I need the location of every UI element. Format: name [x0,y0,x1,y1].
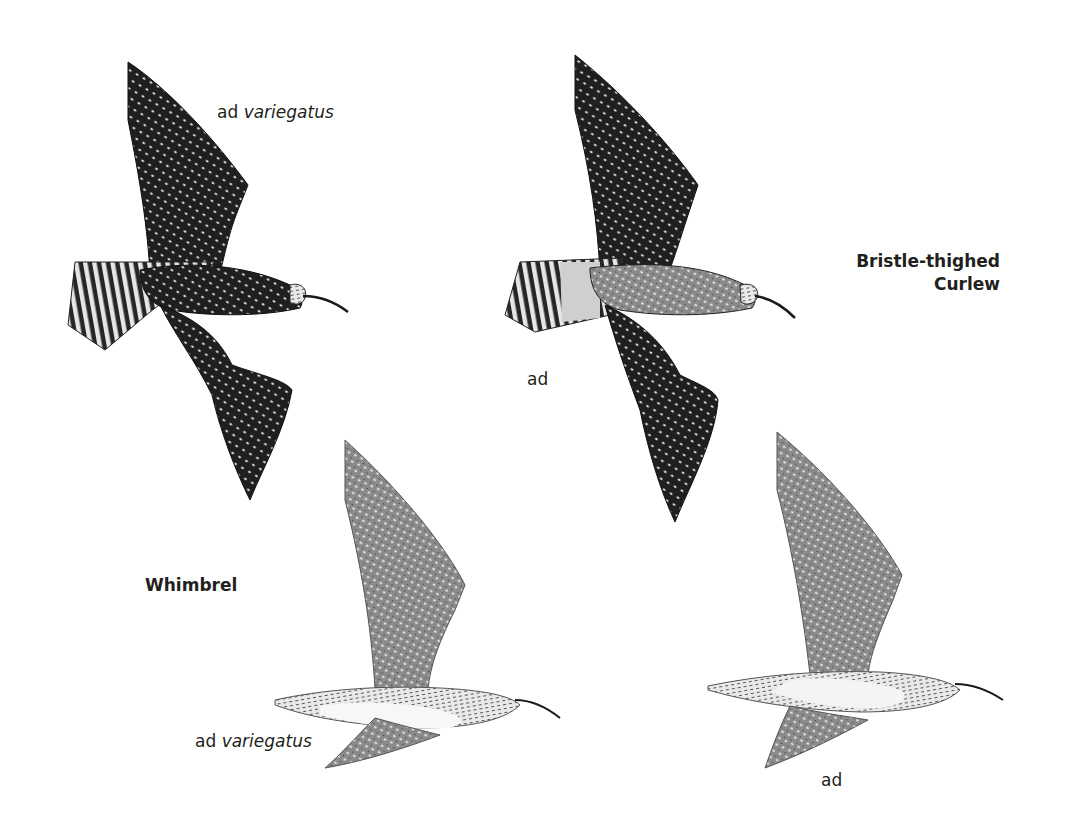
subspecies-label: variegatus [222,731,312,751]
whimbrel-underwing-figure [275,440,560,768]
bristle-thighed-upperwing-figure [505,55,795,522]
species-name-line2: Curlew [820,273,1000,296]
label-bottom-left: ad variegatus [195,730,312,752]
age-label: ad [527,369,548,389]
age-label: ad [217,102,238,122]
whimbrel-upperwing-figure [68,62,348,500]
age-label: ad [821,770,842,790]
species-name-text: Whimbrel [145,575,237,595]
label-top-left: ad variegatus [217,101,334,123]
species-name-whimbrel: Whimbrel [145,574,237,597]
bristle-thighed-underwing-figure [708,432,1003,768]
field-guide-plate: ad variegatus ad Bristle-thighed Curlew … [0,0,1066,826]
species-name-line1: Bristle-thighed [820,250,1000,273]
label-top-right: ad [527,368,548,390]
age-label: ad [195,731,216,751]
bird-illustrations [0,0,1066,826]
subspecies-label: variegatus [244,102,334,122]
label-bottom-right: ad [821,769,842,791]
species-name-bristle-thighed-curlew: Bristle-thighed Curlew [820,250,1000,296]
